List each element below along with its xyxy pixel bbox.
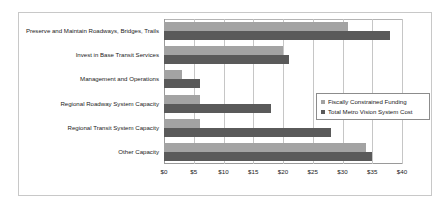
x-tick-label: $15 [248,168,258,175]
x-tick-label: $30 [337,168,347,175]
bar-0 [164,70,182,79]
category-label: Invest in Base Transit Services [76,52,159,58]
x-tick-label: $35 [367,168,377,175]
bar-1 [164,152,372,161]
x-tick-label: $40 [397,168,407,175]
legend-item-1: Total Metro Vision System Cost [321,107,425,117]
category-label: Management and Operations [80,76,159,82]
bar-0 [164,46,283,55]
legend-label: Total Metro Vision System Cost [328,109,413,115]
bar-1 [164,104,271,113]
legend-label: Fiscally Constrained Funding [328,99,407,105]
chart-frame: Preserve and Maintain Roadways, Bridges,… [18,12,432,196]
category-label: Regional Transit System Capacity [68,125,159,131]
bar-0 [164,119,200,128]
x-axis-tick-labels: $0$5$10$15$20$25$30$35$40 [164,168,402,180]
legend-swatch-icon [321,100,325,104]
category-label: Preserve and Maintain Roadways, Bridges,… [26,28,159,34]
chart-legend: Fiscally Constrained Funding Total Metro… [316,93,430,120]
category-axis-labels: Preserve and Maintain Roadways, Bridges,… [19,19,159,164]
x-tick-label: $0 [161,168,168,175]
x-tick-label: $20 [278,168,288,175]
plot-area [164,19,402,164]
bar-group [164,43,402,67]
bar-group [164,19,402,43]
legend-item-0: Fiscally Constrained Funding [321,97,425,107]
bar-group [164,67,402,91]
x-tick-label: $10 [218,168,228,175]
x-tick-label: $25 [308,168,318,175]
bar-group [164,140,402,164]
bar-1 [164,79,200,88]
bar-0 [164,95,200,104]
category-label: Regional Roadway System Capacity [60,101,159,107]
bar-1 [164,128,331,137]
gridline [402,19,403,164]
category-label: Other Capacity [118,149,159,155]
bar-1 [164,55,289,64]
bar-0 [164,22,348,31]
legend-swatch-icon [321,110,325,114]
x-tick-label: $5 [190,168,197,175]
bar-0 [164,143,366,152]
bar-1 [164,31,390,40]
